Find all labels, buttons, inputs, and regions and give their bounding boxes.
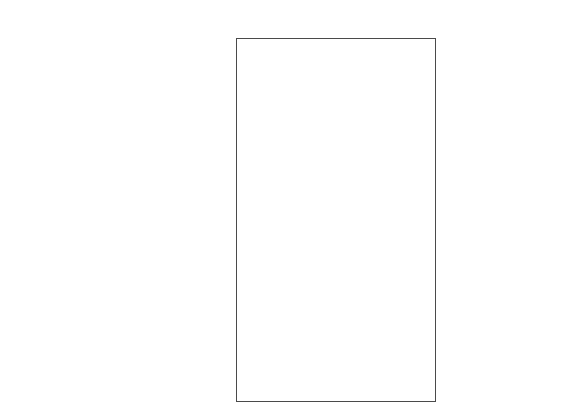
data-points-layer — [236, 38, 436, 402]
scatter-chart-figure — [0, 0, 561, 407]
y-axis-category-labels — [0, 38, 232, 402]
x-axis-tick-labels — [236, 20, 436, 32]
